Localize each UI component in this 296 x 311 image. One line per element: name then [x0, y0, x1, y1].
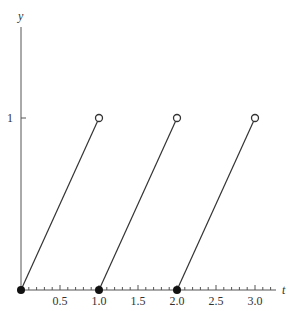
sawtooth-chart: 0.51.01.52.02.53.01 t y	[0, 0, 296, 311]
filled-point-marker	[17, 286, 25, 294]
filled-point-marker	[173, 286, 181, 294]
series	[17, 115, 259, 295]
open-point-marker	[96, 115, 103, 122]
axes: 0.51.01.52.02.53.01	[7, 27, 276, 308]
segment-3	[173, 115, 259, 295]
line-segment	[21, 121, 98, 290]
line-segment	[99, 121, 176, 290]
x-tick-label: 1.5	[131, 294, 146, 308]
y-tick-label: 1	[7, 111, 13, 125]
x-tick-label: 0.5	[53, 294, 68, 308]
x-tick-label: 1.0	[92, 294, 107, 308]
y-axis-label: y	[17, 9, 24, 23]
x-axis-label: t	[282, 283, 286, 297]
open-point-marker	[174, 115, 181, 122]
filled-point-marker	[95, 286, 103, 294]
segment-1	[17, 115, 103, 295]
x-tick-label: 2.0	[170, 294, 185, 308]
x-tick-label: 2.5	[209, 294, 224, 308]
x-tick-label: 3.0	[248, 294, 263, 308]
open-point-marker	[252, 115, 259, 122]
segment-2	[95, 115, 181, 295]
line-segment	[177, 121, 254, 290]
